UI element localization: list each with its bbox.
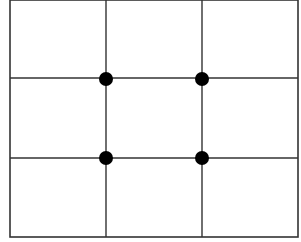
vertical-grid-lines — [106, 0, 202, 237]
intersection-dot-3 — [99, 151, 113, 165]
intersection-dot-4 — [195, 151, 209, 165]
intersection-points — [99, 72, 209, 165]
horizontal-grid-lines — [10, 78, 298, 158]
grid-frame — [10, 0, 298, 237]
thirds-grid-diagram — [0, 0, 301, 242]
intersection-dot-1 — [99, 72, 113, 86]
intersection-dot-2 — [195, 72, 209, 86]
